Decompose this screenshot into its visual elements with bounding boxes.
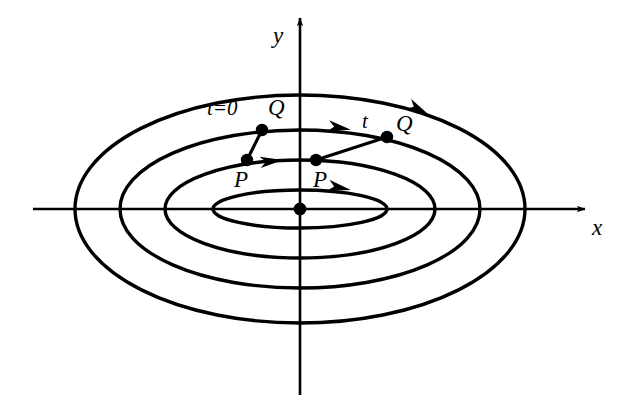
point-label-P-time-t: P xyxy=(313,168,327,191)
y-axis-label: y xyxy=(273,24,283,47)
point-label-Q-time-t: Q xyxy=(396,112,413,135)
point-P-time-t xyxy=(310,154,322,166)
diagram-canvas xyxy=(0,0,617,420)
point-P-initial xyxy=(241,154,253,166)
point-label-P-initial: P xyxy=(234,168,248,191)
point-Q-initial xyxy=(256,124,268,136)
phase-portrait-figure: x y t=0 t P Q P Q xyxy=(0,0,617,420)
point-label-Q-initial: Q xyxy=(268,96,285,119)
x-axis-label: x xyxy=(592,216,602,239)
axes-group xyxy=(33,18,585,395)
label-t-equals-0: t=0 xyxy=(207,98,238,119)
origin-point xyxy=(294,203,307,216)
connector-time-t-PQ xyxy=(316,137,387,160)
point-Q-time-t xyxy=(381,131,393,143)
label-t: t xyxy=(362,111,368,132)
